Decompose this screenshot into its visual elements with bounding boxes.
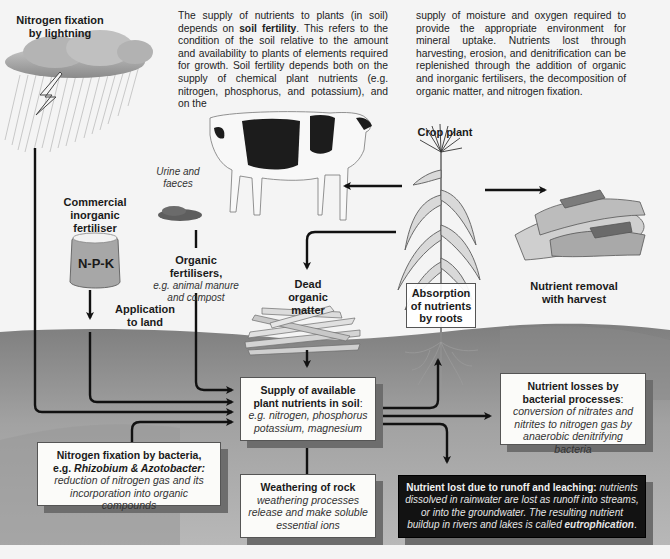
bacterial-losses-box: Nutrient losses by bacterial processes: …: [500, 373, 646, 445]
rain-cloud-icon: [5, 30, 153, 152]
runoff-end: .: [634, 519, 637, 530]
supply-box-title: Supply of available plant nutrients in s…: [253, 384, 359, 409]
label-urine-faeces: Urine and faeces: [150, 166, 206, 190]
harvested-corn-illustration: [515, 190, 645, 260]
bacterial-losses-separator: :: [621, 393, 624, 405]
label-nitrogen-fixation-lightning: Nitrogen fixation by lightning: [10, 14, 110, 40]
supply-box-separator: :: [360, 397, 363, 409]
runoff-leaching-box: Nutrient lost due to runoff and leaching…: [398, 475, 646, 538]
weathering-of-rock-box: Weathering of rock weathering processes …: [240, 474, 376, 538]
soil-fertility-term: soil fertility: [239, 23, 296, 34]
label-nutrient-removal-harvest: Nutrient removal with harvest: [524, 280, 624, 306]
supply-of-nutrients-box: Supply of available plant nutrients in s…: [240, 377, 376, 441]
intro-text-part: . This refers to the condition of the so…: [178, 23, 388, 110]
label-dead-organic-matter: Dead organic matter: [276, 278, 340, 317]
intro-text-column-2: supply of moisture and oxygen required t…: [416, 10, 626, 98]
organic-fertilisers-title: Organic fertilisers,: [148, 254, 244, 280]
lightning-bolt-icon: [36, 72, 62, 115]
nitrogen-fixation-bacteria-title: Nitrogen fixation by bacteria,: [44, 449, 214, 462]
label-commercial-fertiliser: Commercial inorganic fertiliser: [55, 196, 135, 235]
example-prefix: e.g.: [53, 462, 74, 474]
npk-bag-label: N-P-K: [72, 256, 120, 271]
nitrogen-fixation-bacteria-box: Nitrogen fixation by bacteria, e.g. Rhiz…: [37, 442, 221, 506]
label-crop-plant: Crop plant: [405, 126, 485, 139]
cow-illustration: [210, 112, 372, 220]
dung-pile-icon: [158, 206, 202, 221]
intro-text-column-1: The supply of nutrients to plants (in so…: [178, 10, 388, 111]
absorption-by-roots-box: Absorption of nutrients by roots: [406, 283, 476, 328]
eutrophication-term: eutrophication: [565, 519, 634, 530]
bacterial-losses-title: Nutrient losses by bacterial processes: [523, 380, 621, 405]
nitrogen-fixation-bacteria-detail: reduction of nitrogen gas and its incorp…: [44, 474, 214, 512]
runoff-title: Nutrient lost due to runoff and leaching…: [406, 482, 597, 493]
weathering-title: Weathering of rock: [247, 481, 369, 494]
label-application-to-land: Application to land: [110, 303, 180, 329]
supply-box-detail: e.g. nitrogen, phosphorus potassium, mag…: [248, 409, 367, 434]
bacteria-names: Rhizobium & Azotobacter:: [74, 462, 205, 474]
organic-fertilisers-detail: e.g. animal manure and compost: [148, 280, 244, 304]
weathering-detail: weathering processes release and make so…: [247, 494, 369, 532]
label-organic-fertilisers: Organic fertilisers, e.g. animal manure …: [148, 254, 244, 304]
